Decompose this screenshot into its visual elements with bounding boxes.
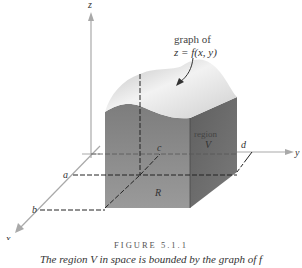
y-axis-label: y <box>294 147 300 158</box>
point-b-label: b <box>32 204 37 215</box>
figure-caption-title: FIGURE 5.1.1 <box>0 240 302 250</box>
graph-annotation-line1: graph of <box>174 33 211 45</box>
point-c-label: c <box>157 142 162 153</box>
base-region-label: R <box>154 187 161 198</box>
dashed-d-line-2 <box>246 152 252 160</box>
x-axis-label: x <box>5 233 11 240</box>
point-a-label: a <box>63 169 68 180</box>
z-axis-label: z <box>87 0 92 10</box>
y-axis-arrowhead <box>285 149 294 155</box>
dashed-d-line <box>237 160 246 172</box>
point-d-label: d <box>241 139 247 150</box>
region-under-surface-diagram: z x y a b c d region V R graph of z = f(… <box>0 0 302 240</box>
region-label: region <box>194 129 217 139</box>
z-axis-arrowhead <box>88 12 94 21</box>
figure-caption-text: The region V in space is bounded by the … <box>0 253 302 265</box>
x-axis <box>19 146 100 229</box>
graph-annotation-line2: z = f(x, y) <box>173 46 217 59</box>
front-face <box>105 104 190 208</box>
